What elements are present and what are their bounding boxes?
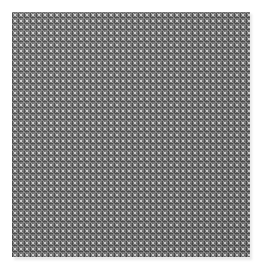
woven-mesh-texture: [12, 12, 250, 257]
